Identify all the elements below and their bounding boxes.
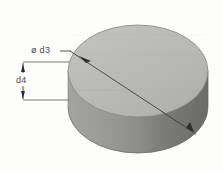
height-label: d4 (16, 76, 27, 85)
height-dimension (21, 62, 69, 100)
cylinder-drawing-svg (0, 0, 222, 171)
height-arrowhead-top (21, 64, 25, 72)
height-arrowhead-bottom (21, 91, 25, 99)
technical-drawing-figure: ø d3 d4 (0, 0, 222, 171)
cylinder-top-face (68, 25, 208, 117)
diameter-label: ø d3 (31, 46, 50, 55)
